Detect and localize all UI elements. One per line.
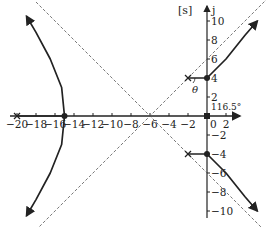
y-tick-label: −8	[211, 186, 226, 198]
y-tick-label: 8	[211, 34, 218, 46]
x-tick-label: −6	[142, 118, 158, 130]
asymptotes	[36, 0, 269, 227]
theta-label: θ	[192, 84, 198, 95]
y-tick-label: −10	[211, 205, 233, 217]
plane-label: [s]	[178, 4, 192, 17]
axes	[10, 6, 240, 218]
locus-branch	[188, 154, 257, 211]
y-tick-label: −6	[211, 167, 227, 179]
y-tick-label: 4	[211, 72, 218, 84]
locus-branch	[188, 21, 257, 78]
x-tick-label: −8	[123, 118, 138, 130]
asymptote-line	[36, 2, 269, 227]
breakaway-point	[204, 75, 210, 81]
y-tick-label: −4	[211, 148, 227, 160]
y-tick-label: 6	[211, 53, 218, 65]
asymptote-line	[36, 0, 269, 227]
locus-branch	[27, 16, 65, 116]
y-tick-label: −2	[211, 129, 226, 141]
x-tick-label: −10	[101, 118, 123, 130]
x-tick-label: −4	[161, 118, 177, 130]
root-locus-plot: −20−18−16−14−12−10−8−6−4−202108642−2−4−6…	[0, 0, 274, 227]
x-tick-label: −2	[180, 118, 195, 130]
breakaway-point	[204, 151, 210, 157]
departure-angle-label: 116.5°	[211, 102, 241, 112]
locus-branch	[27, 116, 65, 216]
